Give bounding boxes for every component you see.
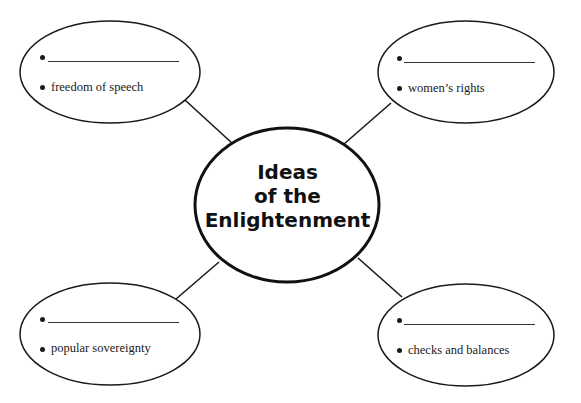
connector-bottom-left [176,262,219,299]
node-label: freedom of speech [51,80,143,95]
center-title-line-3: Enlightenment [195,208,380,232]
bullet-icon [397,348,402,353]
center-title-line-1: Ideas [195,160,380,184]
center-title-line-2: of the [195,184,380,208]
connector-bottom-right [358,258,402,297]
bullet-icon [40,317,45,322]
bullet-icon [40,347,45,352]
bullet-icon [40,85,45,90]
bullet-icon [397,86,402,91]
blank-answer-line[interactable] [48,322,179,323]
blank-answer-line[interactable] [48,61,179,62]
connector-top-right [344,103,391,144]
node-label: checks and balances [408,343,509,358]
blank-answer-line[interactable] [404,324,535,325]
node-oval-top-right [378,21,554,123]
center-title: Ideas of the Enlightenment [195,160,380,232]
bullet-icon [397,56,402,61]
node-oval-bottom-right [378,284,554,386]
bullet-icon [397,318,402,323]
bullet-icon [40,55,45,60]
connector-top-left [185,100,233,144]
node-label: women’s rights [408,81,485,96]
node-oval-bottom-left [20,283,200,385]
node-label: popular sovereignty [51,341,151,356]
node-oval-top-left [20,21,200,123]
blank-answer-line[interactable] [404,62,535,63]
